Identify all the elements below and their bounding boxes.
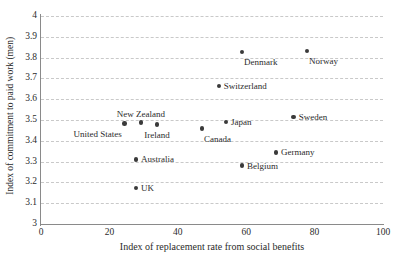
y-axis-line [40, 14, 41, 226]
data-point-label: Ireland [144, 131, 169, 140]
y-tick-label: 3.8 [25, 53, 37, 63]
data-point [134, 186, 139, 191]
data-point-label: New Zealand [117, 110, 165, 119]
y-tick-label: 3.5 [25, 115, 37, 125]
y-tick-label: 3.2 [25, 178, 37, 188]
x-tick-label: 40 [173, 228, 183, 238]
y-tick-label: 3.7 [25, 74, 37, 84]
data-point [240, 163, 245, 168]
gridline [41, 37, 383, 38]
data-point [155, 122, 160, 127]
data-point-label: UK [141, 184, 154, 193]
data-point [122, 121, 127, 126]
data-point [134, 157, 139, 162]
gridline [41, 203, 383, 204]
x-axis-line [40, 224, 384, 225]
data-point-label: Germany [281, 148, 315, 157]
data-point [305, 49, 310, 54]
data-point [217, 84, 222, 89]
scatter-chart-figure: United StatesNew ZealandIrelandAustralia… [0, 0, 396, 266]
y-tick-label: 3.4 [25, 136, 37, 146]
data-point [291, 115, 296, 120]
data-point-label: Australia [141, 155, 174, 164]
data-point-label: Norway [309, 57, 338, 66]
gridline [41, 78, 383, 79]
data-point-label: Canada [204, 135, 231, 144]
data-point [200, 126, 205, 131]
data-point-label: Switzerland [224, 82, 267, 91]
data-point [139, 120, 144, 125]
data-point [274, 150, 279, 155]
y-tick-label: 3 [32, 219, 37, 229]
x-tick-label: 0 [39, 228, 44, 238]
data-point [224, 120, 229, 125]
x-axis-title: Index of replacement rate from social be… [41, 242, 383, 252]
y-axis-title: Index of commitment to paid work (men) [6, 16, 16, 216]
gridline [41, 120, 383, 121]
gridline [41, 182, 383, 183]
y-tick-label: 3.1 [25, 198, 37, 208]
gridline [41, 16, 383, 17]
data-point-label: Belgium [247, 161, 278, 170]
plot-area: United StatesNew ZealandIrelandAustralia… [41, 16, 383, 224]
gridline [41, 99, 383, 100]
gridline [41, 162, 383, 163]
y-tick-label: 3.6 [25, 94, 37, 104]
y-tick-label: 4 [32, 11, 37, 21]
data-point-label: Sweden [299, 113, 328, 122]
x-tick-label: 60 [241, 228, 251, 238]
x-tick-label: 100 [376, 228, 390, 238]
y-tick-label: 3.9 [25, 32, 37, 42]
data-point-label: Japan [231, 118, 252, 127]
x-tick-label: 20 [105, 228, 115, 238]
y-tick-label: 3.3 [25, 157, 37, 167]
data-point [240, 50, 245, 55]
data-point-label: Denmark [244, 58, 278, 67]
data-point-label: United States [74, 130, 122, 139]
x-tick-label: 80 [310, 228, 320, 238]
